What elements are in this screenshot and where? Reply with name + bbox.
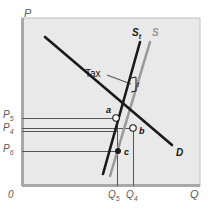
demand-label: D bbox=[176, 147, 183, 158]
supply-label: S bbox=[152, 27, 159, 38]
point-a-marker bbox=[113, 115, 119, 121]
y-axis-label: P bbox=[24, 7, 32, 19]
tick-label-p5: P5 bbox=[3, 109, 14, 122]
tick-label-p4: P4 bbox=[3, 122, 14, 135]
point-c-marker bbox=[115, 148, 120, 153]
tick-label-q5: Q5 bbox=[108, 189, 120, 202]
plot-panel bbox=[22, 18, 200, 186]
point-b-label: b bbox=[139, 126, 145, 136]
x-axis-label: Q bbox=[190, 188, 199, 200]
point-b-marker bbox=[130, 125, 136, 131]
supply-demand-tax-figure: P Q 0 P5 P4 P6 Q5 Q4 St S D a b c Tax bbox=[0, 0, 209, 215]
tax-annotation-label: Tax bbox=[85, 68, 101, 79]
point-c-label: c bbox=[124, 147, 129, 157]
tick-label-p6: P6 bbox=[3, 143, 14, 156]
origin-label: 0 bbox=[8, 189, 14, 200]
tick-label-q4: Q4 bbox=[126, 189, 138, 202]
point-a-label: a bbox=[106, 105, 111, 115]
